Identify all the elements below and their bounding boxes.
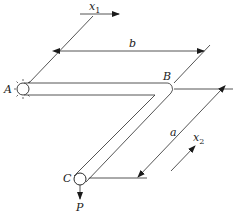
x2-label: x2 bbox=[193, 131, 204, 146]
point-b-label: B bbox=[162, 70, 171, 83]
end-c-circle bbox=[74, 173, 86, 185]
x1-label: x1 bbox=[89, 0, 100, 15]
point-a-label: A bbox=[3, 83, 12, 96]
dimension-a-label: a bbox=[170, 126, 177, 139]
x2-axis-arrow bbox=[171, 146, 195, 171]
load-p-label: P bbox=[75, 201, 84, 214]
point-c-label: C bbox=[63, 172, 72, 185]
dimension-b-label: b bbox=[129, 37, 136, 50]
fixed-support-icon bbox=[14, 79, 30, 99]
bent-bar-diagram: x1 b a x2 bbox=[0, 0, 236, 214]
bar-segment-bc bbox=[74, 88, 171, 182]
bar-segment-ab bbox=[24, 83, 173, 95]
extension-line-a bbox=[28, 16, 93, 84]
